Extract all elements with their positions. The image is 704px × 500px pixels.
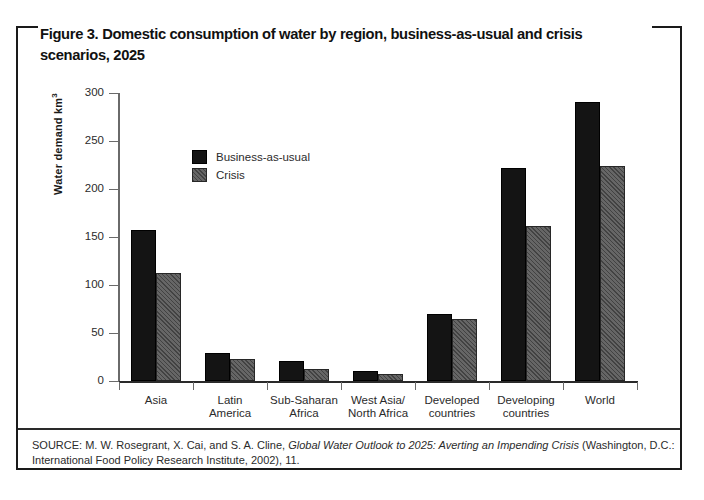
legend-label-business-as-usual: Business-as-usual [216,151,310,163]
y-axis-label: Water demand km3 [50,93,64,195]
y-tick-50 [109,333,119,334]
y-axis-label-superscript: 3 [50,93,59,98]
bar-business-as-usual [575,102,600,381]
y-tick-0 [109,381,119,382]
x-tick-label-5: Developing countries [489,394,563,419]
y-tick-label-150: 150 [70,231,104,242]
legend-item-crisis: Crisis [192,167,310,183]
source-note: SOURCE: M. W. Rosegrant, X. Cai, and S. … [32,438,680,467]
bar-crisis [230,359,255,381]
bar-crisis [526,226,551,381]
bar-business-as-usual [427,314,452,381]
x-tick-label-0: Asia [119,394,193,407]
y-tick-300 [109,93,119,94]
source-divider [18,428,680,430]
bar-business-as-usual [205,353,230,381]
x-tick-label-2: Sub-Saharan Africa [267,394,341,419]
bar-crisis [452,319,477,381]
x-tick-label-6: World [563,394,637,407]
x-tick-label-4: Developed countries [415,394,489,419]
x-axis-line [119,381,638,383]
y-tick-label-50: 50 [70,327,104,338]
bar-business-as-usual [131,230,156,381]
x-tick-7 [637,382,638,390]
bar-crisis [156,273,181,381]
legend-item-business-as-usual: Business-as-usual [192,149,310,165]
y-tick-label-0: 0 [70,375,104,386]
legend-swatch-crisis [192,168,207,182]
x-tick-0 [119,382,120,390]
x-tick-4 [415,382,416,390]
y-tick-label-300: 300 [70,87,104,98]
x-tick-1 [193,382,194,390]
source-title-italic: Global Water Outlook to 2025: Averting a… [288,439,579,451]
x-tick-2 [267,382,268,390]
x-tick-label-3: West Asia/ North Africa [341,394,415,419]
plot-area [119,93,637,381]
legend-swatch-business-as-usual [192,150,207,164]
figure-title: Figure 3. Domestic consumption of water … [40,23,616,65]
chart-legend: Business-as-usual Crisis [192,149,310,185]
x-tick-5 [489,382,490,390]
y-tick-250 [109,141,119,142]
y-tick-150 [109,237,119,238]
x-tick-3 [341,382,342,390]
x-tick-6 [563,382,564,390]
bar-business-as-usual [279,361,304,381]
bar-crisis [378,374,403,381]
bar-crisis [600,166,625,381]
bar-business-as-usual [353,371,378,381]
y-tick-label-100: 100 [70,279,104,290]
bar-crisis [304,369,329,381]
y-tick-label-250: 250 [70,135,104,146]
y-tick-200 [109,189,119,190]
legend-label-crisis: Crisis [216,169,245,181]
y-axis-label-text: Water demand km [52,98,64,195]
y-tick-100 [109,285,119,286]
bar-business-as-usual [501,168,526,381]
y-tick-label-200: 200 [70,183,104,194]
x-tick-label-1: Latin America [193,394,267,419]
source-prefix: SOURCE: M. W. Rosegrant, X. Cai, and S. … [32,439,288,451]
